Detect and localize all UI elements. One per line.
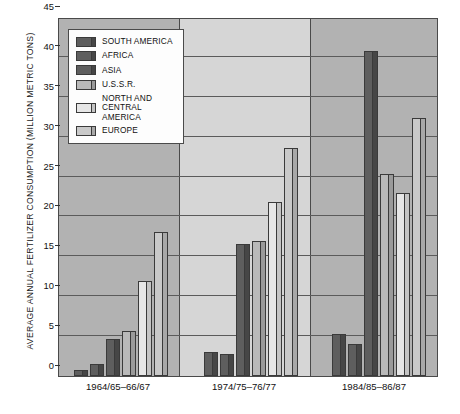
legend-swatch-side [91,52,95,60]
bar [204,352,218,376]
y-axis-tick-label: 10 [44,280,59,291]
bar-side [340,335,345,375]
y-axis-tick-label: 0 [49,360,59,371]
bar [106,339,120,376]
x-axis-label: 1984/85–86/87 [310,381,438,392]
bar [220,354,234,376]
y-axis-tick-label: 35 [44,80,59,91]
bar [348,344,362,376]
legend-swatch [76,51,96,61]
legend-swatch [76,37,96,47]
legend-label: NORTH AND CENTRAL AMERICA [102,94,175,122]
legend-swatch [76,126,96,136]
legend-swatch-side [91,104,95,112]
bar-side [292,149,297,375]
bar-side [146,282,151,375]
y-axis-tick-label: 40 [44,40,59,51]
legend-item: AFRICA [76,51,175,61]
x-axis-label: 1974/75–76/77 [178,381,310,392]
bar [154,232,168,376]
fertilizer-consumption-bar-chart: AVERAGE ANNUAL FERTILIZER CONSUMPTION (M… [0,0,460,414]
bar [332,334,346,376]
bar [268,202,282,376]
y-axis-tick-label: 25 [44,160,59,171]
bar-side [82,371,87,375]
legend-item: EUROPE [76,126,175,136]
legend-swatch-side [91,81,95,89]
x-axis-label: 1964/65–66/67 [58,381,178,392]
y-axis-tick-label: 20 [44,200,59,211]
y-axis-tick-label: 45 [44,1,59,12]
legend-swatch-side [91,127,95,135]
bar [412,118,426,376]
bar-side [244,245,249,375]
legend-swatch [76,103,96,113]
legend-item: ASIA [76,65,175,75]
bar-side [162,233,167,375]
bar [364,51,378,376]
legend-swatch-side [91,66,95,74]
bar [74,370,88,376]
legend-item: U.S.S.R. [76,80,175,90]
legend-label: EUROPE [102,126,138,135]
bar [236,244,250,376]
y-axis-tick-label: 30 [44,120,59,131]
bar [138,281,152,376]
bar [252,241,266,376]
legend-label: U.S.S.R. [102,80,135,89]
bar-side [420,119,425,375]
legend-swatch-side [91,38,95,46]
bar-side [98,365,103,375]
bar-side [372,52,377,375]
bar-side [404,194,409,375]
bar [284,148,298,376]
legend-swatch [76,65,96,75]
legend-swatch [76,80,96,90]
bar-side [130,332,135,375]
legend-item: SOUTH AMERICA [76,37,175,47]
y-axis-tick-label: 5 [49,320,59,331]
bar [396,193,410,376]
bar [90,364,104,376]
y-axis-tick-label: 15 [44,240,59,251]
bar-side [260,242,265,375]
legend-label: ASIA [102,66,122,75]
bar-side [276,203,281,375]
bar-side [356,345,361,375]
legend: SOUTH AMERICAAFRICAASIAU.S.S.R.NORTH AND… [68,29,184,144]
bar-side [388,175,393,375]
bar [380,174,394,376]
bar-side [212,353,217,375]
bar-side [114,340,119,375]
legend-label: AFRICA [102,51,133,60]
legend-item: NORTH AND CENTRAL AMERICA [76,94,175,122]
bar-side [228,355,233,375]
legend-label: SOUTH AMERICA [102,37,173,46]
y-axis-title: AVERAGE ANNUAL FERTILIZER CONSUMPTION (M… [25,5,35,377]
bar [122,331,136,376]
